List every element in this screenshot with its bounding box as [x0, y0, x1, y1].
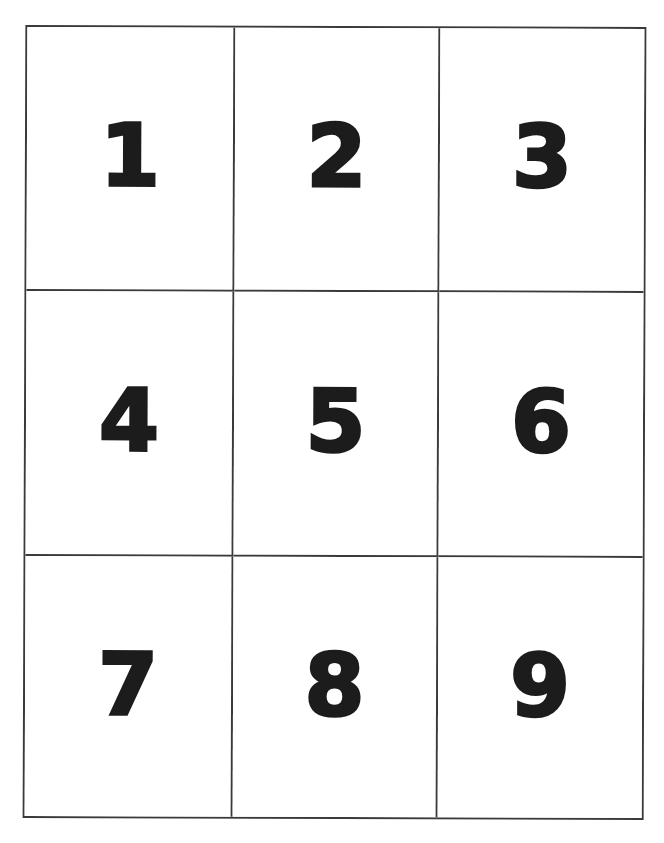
grid-cell-5: 5 [234, 292, 440, 558]
digit-label: 7 [98, 641, 158, 727]
digit-label: 5 [305, 377, 365, 463]
grid-cell-6: 6 [439, 292, 644, 558]
digit-label: 1 [100, 112, 160, 198]
grid-cell-8: 8 [233, 557, 439, 818]
digit-label: 8 [305, 642, 365, 728]
grid-cell-4: 4 [26, 291, 235, 557]
digit-label: 4 [99, 377, 159, 463]
grid-cell-3: 3 [439, 28, 644, 293]
grid-cell-1: 1 [26, 27, 235, 292]
digit-label: 6 [511, 378, 571, 464]
digit-label: 3 [512, 114, 572, 200]
grid-cell-2: 2 [234, 28, 440, 293]
grid-cell-9: 9 [438, 557, 643, 818]
digit-label: 2 [306, 113, 366, 199]
printable-sheet: 1 2 3 4 5 6 7 8 9 [0, 0, 664, 843]
number-grid: 1 2 3 4 5 6 7 8 9 [23, 25, 647, 820]
grid-cell-7: 7 [25, 556, 234, 817]
digit-label: 9 [510, 643, 570, 729]
